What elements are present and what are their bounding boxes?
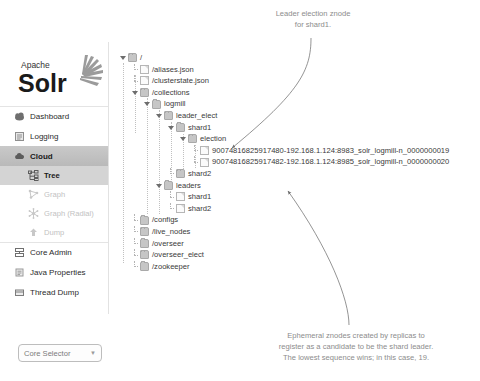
- tree-node-label: logmill: [164, 98, 186, 110]
- expand-triangle-icon[interactable]: [131, 87, 140, 99]
- core-admin-icon: [14, 247, 25, 258]
- folder-icon: [128, 53, 137, 62]
- tree-node-label: 90074816825917480-192.168.1.124:8983_sol…: [212, 145, 449, 157]
- sidebar-item-label: Dump: [44, 228, 64, 237]
- tree-node[interactable]: /: [119, 52, 449, 64]
- tree-node[interactable]: /collections: [119, 87, 449, 99]
- folder-icon: [164, 111, 173, 120]
- cloud-icon: [14, 151, 25, 162]
- tree-node-label: 90074816825917482-192.168.1.124:8985_sol…: [212, 156, 449, 168]
- tree-node[interactable]: /clusterstate.json: [119, 75, 449, 87]
- sidebar-item-label: Graph: [44, 190, 65, 199]
- folder-icon: [140, 227, 149, 236]
- folder-icon: [188, 134, 197, 143]
- annotation-top: Leader election znode for shard1.: [228, 8, 398, 30]
- tree-node[interactable]: shard2: [119, 168, 449, 180]
- annotation-bottom-line-2: register as a candidate to be the shard …: [232, 341, 480, 352]
- tree-connector-icon: [191, 156, 200, 168]
- sidebar-item-label: Thread Dump: [30, 288, 79, 297]
- core-selector-label: Core Selector: [24, 349, 90, 358]
- graph-radial-icon: [28, 208, 39, 219]
- tree-node[interactable]: /configs: [119, 214, 449, 226]
- graph-icon: [28, 189, 39, 200]
- sidebar-item-graph[interactable]: Graph: [0, 185, 108, 204]
- core-selector-dropdown[interactable]: Core Selector ▼: [18, 344, 102, 362]
- sidebar-item-label: Java Properties: [30, 268, 86, 277]
- thread-dump-icon: [14, 287, 25, 298]
- sidebar-item-cloud[interactable]: Cloud: [0, 146, 108, 166]
- tree-node[interactable]: /overseer_elect: [119, 249, 449, 261]
- expand-triangle-icon[interactable]: [119, 52, 128, 64]
- sidebar-item-label: Tree: [44, 171, 60, 180]
- expand-triangle-icon[interactable]: [155, 180, 164, 192]
- sidebar-item-thread-dump[interactable]: Thread Dump: [0, 282, 108, 302]
- expand-triangle-icon[interactable]: [179, 133, 188, 145]
- svg-text:Solr: Solr: [18, 69, 67, 97]
- file-icon: [176, 192, 185, 201]
- folder-icon: [140, 216, 149, 225]
- sidebar-item-label: Logging: [30, 132, 58, 141]
- zookeeper-tree: / /aliases.json /clusterstate.json /coll…: [119, 52, 449, 272]
- tree-node-znode[interactable]: 90074816825917482-192.168.1.124:8985_sol…: [119, 156, 449, 168]
- annotation-bottom-line-1: Ephemeral znodes created by replicas to: [232, 330, 480, 341]
- sidebar-item-dump[interactable]: Dump: [0, 223, 108, 242]
- sidebar-item-tree[interactable]: Tree: [0, 166, 108, 185]
- expand-triangle-icon[interactable]: [155, 110, 164, 122]
- folder-icon: [140, 250, 149, 259]
- tree-node[interactable]: /zookeeper: [119, 261, 449, 273]
- expand-triangle-icon[interactable]: [143, 98, 152, 110]
- tree-node-label: /: [140, 52, 142, 64]
- tree-node[interactable]: leaders: [119, 180, 449, 192]
- tree-connector-icon: [131, 261, 140, 273]
- tree-connector-icon: [167, 168, 176, 180]
- tree-node[interactable]: election: [119, 133, 449, 145]
- tree-connector-icon: [131, 249, 140, 261]
- tree-node[interactable]: /overseer: [119, 238, 449, 250]
- file-icon: [200, 146, 209, 155]
- sidebar-item-dashboard[interactable]: Dashboard: [0, 106, 108, 126]
- tree-node-label: /aliases.json: [152, 64, 194, 76]
- file-icon: [200, 158, 209, 167]
- tree-node-label: /live_nodes: [152, 226, 190, 238]
- tree-node-label: /overseer: [152, 238, 184, 250]
- sidebar-item-label: Cloud: [30, 152, 53, 161]
- tree-node[interactable]: shard2: [119, 203, 449, 215]
- tree-node[interactable]: /live_nodes: [119, 226, 449, 238]
- tree-connector-icon: [131, 64, 140, 76]
- tree-node-znode[interactable]: 90074816825917480-192.168.1.124:8983_sol…: [119, 145, 449, 157]
- sidebar-item-label: Graph (Radial): [44, 209, 94, 218]
- tree-connector-icon: [131, 226, 140, 238]
- file-icon: [176, 204, 185, 213]
- folder-icon: [152, 100, 161, 109]
- sidebar-item-logging[interactable]: Logging: [0, 126, 108, 146]
- sidebar-item-label: Dashboard: [30, 112, 69, 121]
- tree-node[interactable]: /aliases.json: [119, 64, 449, 76]
- tree-connector-icon: [191, 145, 200, 157]
- tree-node[interactable]: shard1: [119, 122, 449, 134]
- sidebar-item-java-properties[interactable]: Java Properties: [0, 262, 108, 282]
- annotation-bottom-line-3: The lowest sequence wins; in this case, …: [232, 352, 480, 363]
- folder-icon: [140, 262, 149, 271]
- tree-node-label: leaders: [176, 180, 201, 192]
- java-properties-icon: [14, 267, 25, 278]
- logging-icon: [14, 131, 25, 142]
- tree-connector-icon: [131, 238, 140, 250]
- folder-icon: [176, 169, 185, 178]
- tree-node[interactable]: logmill: [119, 98, 449, 110]
- dump-icon: [28, 227, 39, 238]
- tree-node-label: /zookeeper: [152, 261, 190, 273]
- sidebar-nav: Dashboard Logging Cloud: [0, 106, 108, 302]
- tree-node[interactable]: shard1: [119, 191, 449, 203]
- sidebar-item-core-admin[interactable]: Core Admin: [0, 242, 108, 262]
- tree-node-label: /clusterstate.json: [152, 75, 209, 87]
- tree-node-label: /overseer_elect: [152, 249, 204, 261]
- expand-triangle-icon[interactable]: [167, 122, 176, 134]
- sidebar-item-graph-radial[interactable]: Graph (Radial): [0, 204, 108, 223]
- folder-icon: [140, 88, 149, 97]
- sidebar: Apache Solr: [0, 40, 108, 340]
- zookeeper-tree-panel: / /aliases.json /clusterstate.json /coll…: [108, 42, 480, 314]
- tree-node-label: /collections: [152, 87, 190, 99]
- tree-connector-icon: [131, 75, 140, 87]
- tree-node[interactable]: leader_elect: [119, 110, 449, 122]
- file-icon: [140, 76, 149, 85]
